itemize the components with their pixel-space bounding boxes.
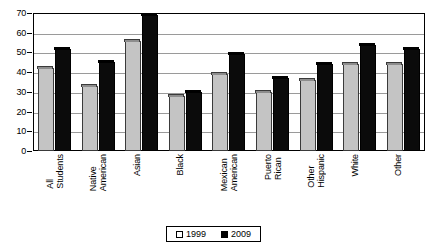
y-tick-mark-0 — [27, 151, 32, 152]
bar-top-cap — [359, 43, 375, 46]
x-axis-labels: All StudentsNative AmericanAsianBlackMex… — [33, 152, 425, 216]
bar-top-cap — [342, 62, 358, 65]
legend-item-2009: 2009 — [221, 229, 251, 239]
bar-top-cap — [228, 52, 244, 55]
x-axis-label: Native American — [88, 154, 108, 191]
bar-top-cap — [316, 62, 332, 65]
y-tick-mark-50 — [27, 52, 32, 53]
bar-1999 — [125, 41, 141, 151]
x-axis-label: Asian — [132, 154, 142, 176]
bar-chart: 010203040506070 All StudentsNative Ameri… — [0, 0, 440, 252]
bar-2009 — [317, 64, 333, 151]
y-tick-label-0: 0 — [21, 146, 26, 156]
bar-2009 — [360, 45, 376, 151]
y-tick-mark-70 — [27, 13, 32, 14]
y-tick-mark-40 — [27, 72, 32, 73]
y-tick-mark-60 — [27, 33, 32, 34]
bars-layer — [33, 13, 425, 151]
bar-top-cap — [37, 66, 53, 69]
bar-group — [381, 13, 425, 151]
bar-group — [251, 13, 295, 151]
chart-legend: 19992009 — [166, 226, 261, 242]
y-tick-mark-20 — [27, 112, 32, 113]
bar-group — [77, 13, 121, 151]
bar-top-cap — [54, 47, 70, 50]
bar-top-cap — [81, 84, 97, 87]
bar-1999 — [169, 96, 185, 151]
x-axis-label: All Students — [45, 154, 65, 189]
bar-group — [120, 13, 164, 151]
bar-top-cap — [124, 39, 140, 42]
legend-item-1999: 1999 — [176, 229, 206, 239]
bar-1999 — [300, 80, 316, 151]
bar-top-cap — [255, 90, 271, 93]
x-axis-label: Other — [393, 154, 403, 176]
x-axis-label: White — [350, 154, 360, 177]
x-axis-label: Puerto Rican — [263, 154, 283, 180]
filled-square-swatch — [221, 231, 228, 238]
legend-label: 2009 — [231, 229, 251, 239]
open-square-swatch — [176, 231, 183, 238]
bar-2009 — [186, 92, 202, 151]
bar-2009 — [229, 54, 245, 151]
y-tick-mark-30 — [27, 92, 32, 93]
bar-1999 — [38, 68, 54, 151]
bar-top-cap — [299, 78, 315, 81]
bar-group — [294, 13, 338, 151]
bar-2009 — [273, 78, 289, 151]
bar-group — [207, 13, 251, 151]
y-tick-label-40: 40 — [16, 67, 26, 77]
bar-2009 — [142, 15, 158, 151]
y-tick-label-30: 30 — [16, 87, 26, 97]
bar-1999 — [82, 86, 98, 151]
bar-1999 — [387, 64, 403, 151]
x-axis-label: Black — [175, 154, 185, 176]
bar-top-cap — [168, 94, 184, 97]
bar-2009 — [404, 49, 420, 152]
bar-top-cap — [403, 47, 419, 50]
bar-top-cap — [141, 13, 157, 16]
bar-1999 — [343, 64, 359, 151]
x-axis-label: Mexican American — [219, 154, 239, 191]
bar-2009 — [55, 49, 71, 152]
bar-group — [338, 13, 382, 151]
bar-group — [164, 13, 208, 151]
bar-1999 — [256, 92, 272, 151]
x-axis-label: Other Hispanic — [306, 154, 326, 188]
y-tick-label-20: 20 — [16, 107, 26, 117]
y-tick-label-60: 60 — [16, 28, 26, 38]
y-tick-mark-10 — [27, 131, 32, 132]
bar-top-cap — [185, 90, 201, 93]
y-tick-label-70: 70 — [16, 8, 26, 18]
bar-top-cap — [386, 62, 402, 65]
bar-2009 — [99, 62, 115, 151]
y-tick-label-50: 50 — [16, 47, 26, 57]
y-axis: 010203040506070 — [0, 0, 33, 160]
bar-top-cap — [272, 76, 288, 79]
bar-top-cap — [211, 72, 227, 75]
legend-label: 1999 — [186, 229, 206, 239]
bar-group — [33, 13, 77, 151]
bar-1999 — [212, 74, 228, 151]
y-tick-label-10: 10 — [16, 126, 26, 136]
bar-top-cap — [98, 60, 114, 63]
